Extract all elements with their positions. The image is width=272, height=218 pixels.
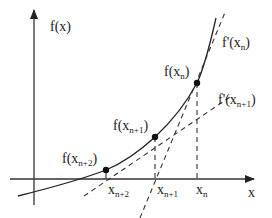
x-axis-label: x [248,185,255,200]
axis-label-xn: xn [196,182,208,199]
point-xn [194,80,200,86]
tangent-line-xn [140,10,226,218]
label-tangent-xn: f'(xn) [222,35,250,52]
point-xn1 [152,134,158,140]
y-axis-label: f(x) [50,19,71,35]
axis-label-xn2: xn+2 [108,182,129,199]
point-xn2 [103,167,109,173]
label-f-xn: f(xn) [164,64,190,81]
label-f-xn1: f(xn+1) [113,118,148,135]
label-f-xn2: f(xn+2) [62,151,97,168]
axis-label-xn1: xn+1 [157,182,178,199]
newton-method-diagram: f(x) x f(xn) f(xn+1) f(xn+2) f'(xn) f'(x… [0,0,272,218]
label-tangent-xn1: f'(xn+1) [218,92,256,109]
